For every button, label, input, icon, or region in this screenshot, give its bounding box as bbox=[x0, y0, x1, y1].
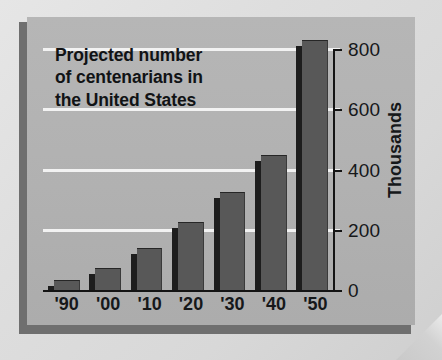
y-axis-tick bbox=[333, 49, 342, 51]
chart-page: Projected number of centenarians in the … bbox=[0, 0, 442, 360]
x-axis-tick-label: '20 bbox=[179, 294, 203, 315]
x-axis-tick-label: '10 bbox=[137, 294, 161, 315]
y-axis-tick bbox=[333, 290, 342, 292]
bar-side-shadow bbox=[172, 228, 178, 290]
y-axis-tick-label: 800 bbox=[348, 40, 380, 59]
bar-side-shadow bbox=[131, 254, 137, 290]
bar bbox=[95, 268, 121, 290]
bar-side-shadow bbox=[89, 274, 95, 290]
bar-side-shadow bbox=[296, 46, 302, 290]
y-axis-tick bbox=[333, 109, 342, 111]
x-axis-tick-label: '00 bbox=[96, 294, 120, 315]
bar bbox=[178, 222, 204, 290]
y-axis-tick-label: 200 bbox=[348, 220, 380, 239]
x-axis-line bbox=[43, 290, 335, 292]
bar bbox=[54, 280, 80, 290]
x-axis-tick-label: '40 bbox=[262, 294, 286, 315]
y-axis-tick-label: 600 bbox=[348, 100, 380, 119]
y-axis-tick-label: 0 bbox=[348, 281, 359, 300]
bar bbox=[302, 40, 328, 290]
bar-side-shadow bbox=[255, 161, 261, 290]
x-axis-tick-label: '50 bbox=[303, 294, 327, 315]
bar bbox=[220, 192, 246, 290]
bar-side-shadow bbox=[214, 198, 220, 290]
bar bbox=[137, 248, 163, 290]
chart-title: Projected number of centenarians in the … bbox=[55, 44, 203, 111]
gridline bbox=[43, 169, 340, 172]
y-axis-title: Thousands bbox=[385, 102, 406, 198]
x-axis-tick-label: '90 bbox=[55, 294, 79, 315]
y-axis-tick bbox=[333, 170, 342, 172]
y-axis-tick-label: 400 bbox=[348, 160, 380, 179]
bar bbox=[261, 155, 287, 290]
x-axis-tick-label: '30 bbox=[220, 294, 244, 315]
y-axis-tick bbox=[333, 230, 342, 232]
